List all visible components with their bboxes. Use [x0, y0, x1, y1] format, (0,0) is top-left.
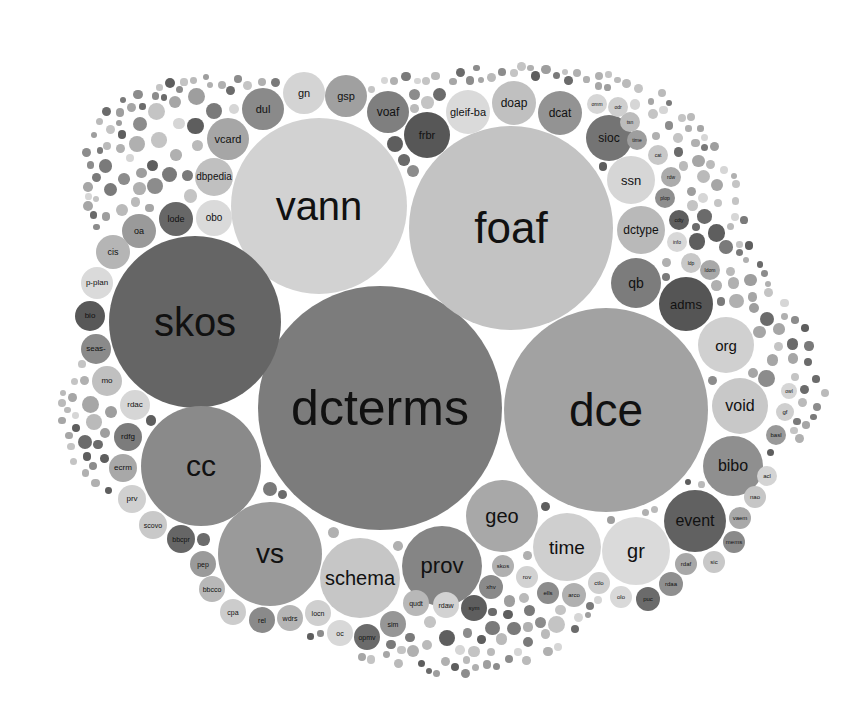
bubble-acl[interactable]: acl [757, 466, 777, 486]
bubble-info[interactable]: info [667, 232, 687, 252]
bubble-xhv[interactable]: xhv [479, 575, 503, 599]
bubble-owl[interactable]: owl [781, 383, 797, 399]
bubble-locn[interactable]: locn [305, 600, 331, 626]
bubble-label: lode [167, 215, 184, 224]
bubble-mo[interactable]: mo [92, 366, 122, 396]
bubble-rdaf[interactable]: rdaf [675, 553, 697, 575]
bubble-vaem[interactable]: vaem [729, 507, 751, 529]
filler-bubble [424, 616, 436, 628]
bubble-odr[interactable]: odr [608, 97, 628, 117]
filler-bubble [127, 103, 136, 112]
filler-bubble [697, 125, 703, 131]
bubble-ssn[interactable]: ssn [607, 156, 655, 204]
bubble-dctype[interactable]: dctype [617, 206, 665, 254]
bubble-voaf[interactable]: voaf [367, 91, 409, 133]
bubble-gsp[interactable]: gsp [325, 75, 367, 117]
bubble-pep[interactable]: pep [190, 551, 216, 577]
filler-bubble [180, 78, 187, 85]
bubble-adms[interactable]: adms [659, 277, 713, 331]
bubble-dul[interactable]: dul [242, 88, 284, 130]
bubble-ldom[interactable]: ldom [700, 260, 720, 280]
bubble-cis[interactable]: cis [96, 235, 130, 269]
bubble-bio[interactable]: bio [75, 301, 105, 331]
bubble-prv[interactable]: prv [118, 485, 146, 513]
bubble-ells[interactable]: ells [537, 582, 559, 604]
filler-bubble [622, 79, 631, 88]
bubble-p-plan[interactable]: p-plan [81, 267, 113, 299]
bubble-ctlo[interactable]: ctlo [588, 572, 610, 594]
bubble-rdac[interactable]: rdac [120, 390, 150, 420]
bubble-sim[interactable]: sim [380, 611, 406, 637]
filler-bubble [685, 125, 692, 132]
bubble-rdfg[interactable]: rdfg [114, 423, 142, 451]
bubble-omm[interactable]: omm [587, 94, 607, 114]
bubble-gn[interactable]: gn [283, 72, 325, 114]
bubble-cdty[interactable]: cdty [669, 210, 689, 230]
filler-bubble [271, 78, 280, 87]
filler-bubble [93, 196, 99, 202]
bubble-vs[interactable]: vs [218, 502, 322, 606]
bubble-rdaa[interactable]: rdaa [659, 572, 683, 596]
filler-bubble [648, 109, 658, 119]
filler-bubble [595, 82, 602, 89]
bubble-dcterms[interactable]: dcterms [258, 286, 502, 530]
bubble-bbcpr[interactable]: bbcpr [167, 525, 195, 553]
bubble-rdw[interactable]: rdw [661, 167, 681, 187]
bubble-wdrs[interactable]: wdrs [277, 605, 303, 631]
bubble-dbpedia[interactable]: dbpedia [195, 158, 233, 196]
bubble-schema[interactable]: schema [320, 538, 400, 618]
bubble-gf[interactable]: gf [776, 403, 794, 421]
bubble-gleif-ba[interactable]: gleif-ba [446, 90, 490, 134]
bubble-vcard[interactable]: vcard [207, 118, 249, 160]
bubble-oc[interactable]: oc [327, 620, 353, 646]
bubble-nao[interactable]: nao [744, 486, 766, 508]
bubble-doap[interactable]: doap [492, 81, 536, 125]
filler-bubble [760, 312, 774, 326]
bubble-ldp[interactable]: ldp [681, 253, 701, 273]
bubble-basl[interactable]: basl [766, 425, 786, 445]
bubble-rdaw[interactable]: rdaw [433, 592, 459, 618]
filler-bubble [188, 88, 205, 105]
bubble-olo[interactable]: olo [610, 586, 632, 608]
bubble-mems[interactable]: mems [723, 531, 745, 553]
bubble-skos[interactable]: skos [492, 555, 514, 577]
filler-bubble [86, 414, 102, 430]
filler-bubble [229, 104, 239, 114]
bubble-sic[interactable]: sic [703, 551, 725, 573]
bubble-qb[interactable]: qb [611, 258, 661, 308]
bubble-bbcco[interactable]: bbcco [199, 576, 225, 602]
bubble-rel[interactable]: rel [249, 607, 275, 633]
bubble-skos[interactable]: skos [109, 236, 281, 408]
filler-bubble [82, 469, 90, 477]
bubble-qudt[interactable]: qudt [403, 590, 429, 616]
bubble-plop[interactable]: plop [655, 188, 675, 208]
bubble-void[interactable]: void [712, 378, 768, 434]
bubble-rov[interactable]: rov [516, 566, 538, 588]
bubble-ecrm[interactable]: ecrm [109, 454, 137, 482]
bubble-time[interactable]: time [627, 130, 647, 150]
bubble-opmv[interactable]: opmv [354, 624, 380, 650]
bubble-label: rel [258, 617, 266, 624]
bubble-event[interactable]: event [664, 490, 726, 552]
bubble-label: vaem [733, 515, 748, 521]
bubble-obo[interactable]: obo [196, 200, 232, 236]
bubble-frbr[interactable]: frbr [404, 112, 450, 158]
bubble-time[interactable]: time [533, 513, 601, 581]
bubble-puc[interactable]: puc [636, 587, 660, 611]
bubble-arco[interactable]: arco [562, 583, 586, 607]
bubble-dce[interactable]: dce [504, 308, 708, 512]
bubble-cat[interactable]: cat [648, 145, 668, 165]
filler-bubble [87, 161, 95, 169]
bubble-foaf[interactable]: foaf [409, 126, 613, 330]
bubble-cpa[interactable]: cpa [220, 599, 246, 625]
bubble-org[interactable]: org [698, 317, 754, 373]
filler-bubble [156, 84, 163, 91]
bubble-gr[interactable]: gr [602, 517, 670, 585]
bubble-geo[interactable]: geo [466, 480, 538, 552]
bubble-seas-[interactable]: seas- [81, 334, 111, 364]
bubble-dcat[interactable]: dcat [538, 91, 582, 135]
bubble-lode[interactable]: lode [159, 202, 193, 236]
bubble-sym[interactable]: sym [461, 595, 487, 621]
filler-bubble [410, 104, 419, 113]
bubble-scovo[interactable]: scovo [139, 511, 167, 539]
